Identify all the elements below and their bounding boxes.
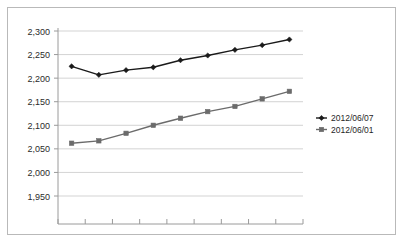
diamond-marker: [319, 115, 324, 120]
square-marker: [233, 104, 237, 108]
series-2: [69, 89, 291, 145]
y-tick-label: 2,050: [27, 144, 50, 154]
square-marker: [97, 139, 101, 143]
y-tick-label: 2,250: [27, 50, 50, 60]
y-tick-marks-group: [54, 31, 58, 196]
square-marker: [151, 123, 155, 127]
y-tick-label: 2,150: [27, 97, 50, 107]
diamond-marker: [232, 47, 237, 52]
diamond-marker: [151, 65, 156, 70]
y-tick-label: 2,000: [27, 168, 50, 178]
square-marker: [206, 109, 210, 113]
data-series-group: [69, 37, 292, 146]
square-marker: [178, 116, 182, 120]
square-marker: [69, 141, 73, 145]
diamond-marker: [123, 68, 128, 73]
y-tick-label: 2,100: [27, 121, 50, 131]
series-1: [69, 37, 292, 78]
diamond-marker: [178, 58, 183, 63]
diamond-marker: [287, 37, 292, 42]
y-tick-label: 1,950: [27, 192, 50, 202]
diamond-marker: [69, 64, 74, 69]
chart-legend: 2012/06/072012/06/01: [316, 113, 374, 135]
y-tick-label: 2,300: [27, 27, 50, 37]
diamond-marker: [96, 72, 101, 77]
legend-label: 2012/06/01: [331, 125, 374, 135]
line-chart-plot: 1,9502,0002,0502,1002,1502,2002,2502,300…: [0, 0, 404, 250]
diamond-marker: [260, 43, 265, 48]
x-tick-marks-group: [58, 219, 303, 224]
square-marker: [319, 127, 323, 131]
square-marker: [124, 131, 128, 135]
y-tick-label: 2,200: [27, 74, 50, 84]
square-marker: [260, 97, 264, 101]
chart-container: 1,9502,0002,0502,1002,1502,2002,2502,300…: [0, 0, 404, 250]
legend-item-2[interactable]: 2012/06/01: [316, 125, 374, 135]
y-axis-tick-labels: 1,9502,0002,0502,1002,1502,2002,2502,300: [27, 27, 50, 202]
series-line: [72, 39, 290, 74]
legend-item-1[interactable]: 2012/06/07: [316, 113, 374, 123]
square-marker: [287, 89, 291, 93]
legend-label: 2012/06/07: [331, 113, 374, 123]
gridlines-group: [58, 31, 303, 196]
diamond-marker: [205, 53, 210, 58]
